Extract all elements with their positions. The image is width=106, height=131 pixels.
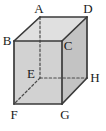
cube-figure: ABCDEFGH xyxy=(0,0,106,131)
vertex-label-e: E xyxy=(27,66,35,81)
vertex-label-g: G xyxy=(60,107,69,122)
vertex-label-h: H xyxy=(90,70,99,85)
vertex-label-f: F xyxy=(10,107,17,122)
cube-diagram-container: ABCDEFGH xyxy=(0,0,106,131)
vertex-label-d: D xyxy=(83,1,92,16)
vertex-label-b: B xyxy=(3,33,12,48)
face-front-BCGF xyxy=(14,41,62,104)
vertex-label-c: C xyxy=(64,38,73,53)
vertex-label-a: A xyxy=(34,1,44,16)
